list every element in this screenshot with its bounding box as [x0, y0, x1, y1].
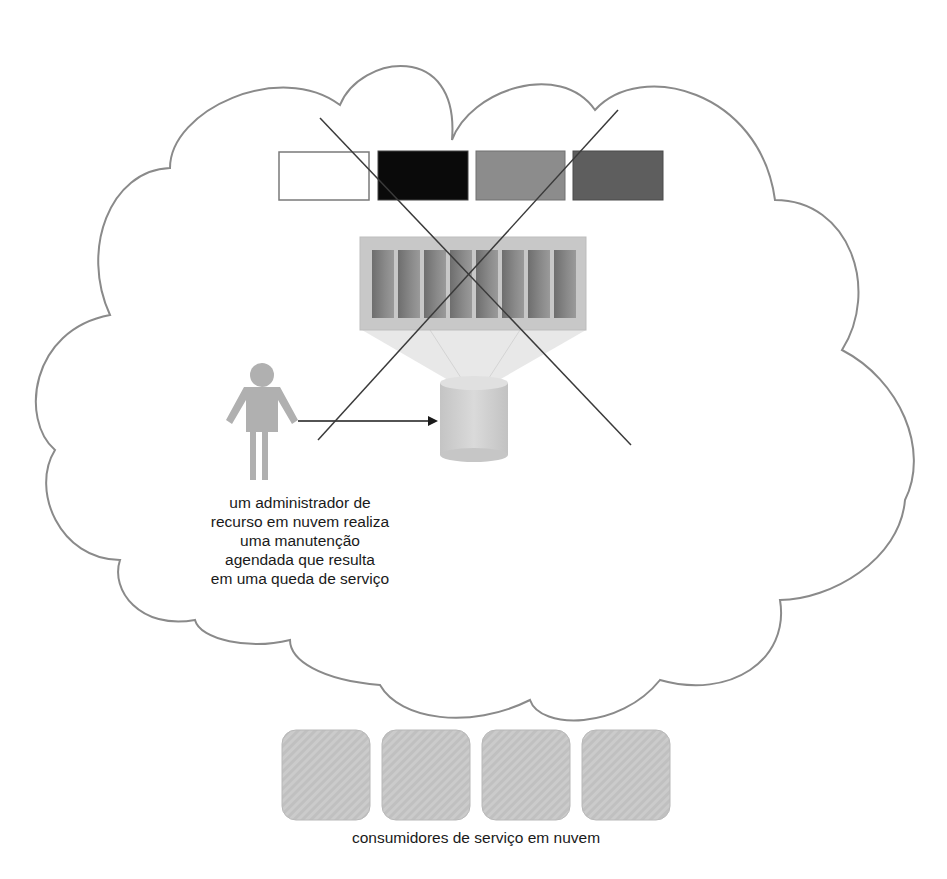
- consumer-box: [482, 730, 570, 820]
- caption-line: agendada que resulta: [150, 550, 450, 569]
- caption-line: uma manutenção: [150, 531, 450, 550]
- resource-box-white: [279, 152, 369, 200]
- administrator-caption: um administrador de recurso em nuvem rea…: [150, 493, 450, 588]
- consumer-box: [382, 730, 470, 820]
- caption-line: um administrador de: [150, 493, 450, 512]
- cloud-consumers: [282, 730, 670, 820]
- consumer-box: [582, 730, 670, 820]
- resource-box-dark-gray: [573, 151, 663, 200]
- service-cylinder-icon: [440, 376, 508, 462]
- consumers-caption: consumidores de serviço em nuvem: [276, 828, 676, 847]
- resource-box-gray: [476, 151, 565, 200]
- caption-line: recurso em nuvem realiza: [150, 512, 450, 531]
- consumer-box: [282, 730, 370, 820]
- server-bank: [360, 237, 586, 330]
- cloud-diagram: [0, 0, 947, 879]
- caption-line: em uma queda de serviço: [150, 569, 450, 588]
